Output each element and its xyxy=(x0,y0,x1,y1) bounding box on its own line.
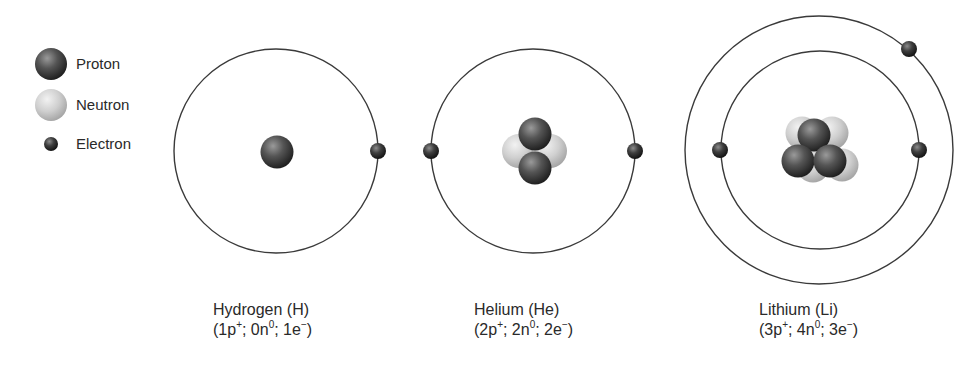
lithium-proton-3 xyxy=(814,145,847,178)
legend-label-neutron: Neutron xyxy=(76,96,129,114)
hydrogen-proton xyxy=(261,136,294,169)
hydrogen-electron xyxy=(370,143,386,159)
legend xyxy=(35,48,67,151)
atom-formula: (2p+; 2n0; 2e−) xyxy=(474,320,573,340)
helium-electron-2 xyxy=(627,143,643,159)
atom-name: Hydrogen (H) xyxy=(213,301,309,318)
atom-name: Lithium (Li) xyxy=(759,301,838,318)
atom-formula: (1p+; 0n0; 1e−) xyxy=(213,320,312,340)
legend-label-proton: Proton xyxy=(76,55,120,73)
atom-name: Helium (He) xyxy=(474,301,559,318)
legend-neutron-icon xyxy=(35,89,67,121)
lithium-atom xyxy=(685,16,953,284)
lithium-proton-2 xyxy=(782,145,815,178)
helium-proton-2 xyxy=(519,152,552,185)
lithium-electron-1 xyxy=(712,142,728,158)
lithium-electron-2 xyxy=(911,142,927,158)
helium-proton-1 xyxy=(519,118,552,151)
atom-formula: (3p+; 4n0; 3e−) xyxy=(759,320,858,340)
hydrogen-atom xyxy=(174,49,386,253)
lithium-caption: Lithium (Li) (3p+; 4n0; 3e−) xyxy=(759,300,858,340)
legend-label-electron: Electron xyxy=(76,135,131,153)
legend-electron-icon xyxy=(44,137,58,151)
helium-atom xyxy=(423,49,643,253)
legend-proton-icon xyxy=(35,48,67,80)
lithium-electron-3 xyxy=(901,41,917,57)
hydrogen-caption: Hydrogen (H) (1p+; 0n0; 1e−) xyxy=(213,300,312,340)
helium-caption: Helium (He) (2p+; 2n0; 2e−) xyxy=(474,300,573,340)
helium-electron-1 xyxy=(423,143,439,159)
